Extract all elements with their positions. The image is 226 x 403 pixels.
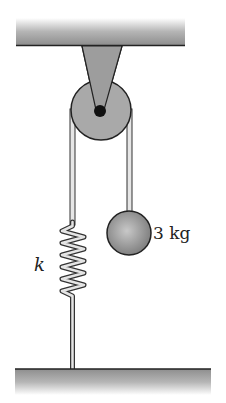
- rope-left: [70, 109, 75, 225]
- axle-icon: [94, 105, 106, 117]
- mass-label: 3 kg: [153, 223, 190, 243]
- spring: [62, 222, 84, 370]
- floor: [15, 369, 211, 395]
- pulley: [71, 46, 131, 140]
- ceiling: [16, 18, 185, 46]
- spring-constant-label: k: [34, 254, 45, 275]
- pulley-spring-diagram: [0, 0, 226, 403]
- mass: [107, 211, 151, 255]
